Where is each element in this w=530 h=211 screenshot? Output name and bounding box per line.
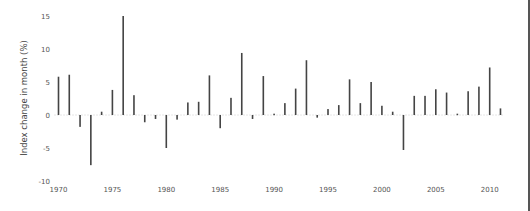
y-axis-ticks: -10-5051015 <box>39 13 50 186</box>
x-tick-label: 2000 <box>373 186 391 194</box>
x-tick-label: 1980 <box>157 186 175 194</box>
x-tick-label: 1990 <box>265 186 283 194</box>
x-tick-label: 2005 <box>427 186 445 194</box>
x-axis-ticks: 197019751980198519901995200020052010 <box>50 186 499 194</box>
bar-1971 <box>68 75 70 115</box>
x-tick-label: 1985 <box>211 186 229 194</box>
y-tick-label: -5 <box>43 145 50 153</box>
chart: Index change in month (%) -10-5051015 19… <box>0 0 530 211</box>
bar-1982 <box>187 102 189 115</box>
bar-1986 <box>230 98 232 115</box>
x-tick-label: 1970 <box>50 186 68 194</box>
bar-2009 <box>478 87 480 115</box>
y-axis-title: Index change in month (%) <box>19 40 29 156</box>
bar-1976 <box>122 16 124 115</box>
bar-1979 <box>155 115 157 119</box>
bar-2006 <box>446 93 448 115</box>
bar-2004 <box>424 96 426 115</box>
bar-2008 <box>467 91 469 115</box>
bar-1992 <box>295 89 297 115</box>
y-tick-label: 15 <box>41 13 50 21</box>
bar-1998 <box>360 103 362 115</box>
bar-1977 <box>133 95 135 115</box>
bar-1970 <box>58 77 60 115</box>
bar-1994 <box>316 115 318 118</box>
bar-1996 <box>338 105 340 115</box>
y-tick-label: 10 <box>41 46 50 54</box>
bar-2003 <box>413 96 415 115</box>
bar-1978 <box>144 115 146 122</box>
x-tick-label: 2010 <box>481 186 499 194</box>
bar-1988 <box>252 115 254 119</box>
x-tick-label: 1975 <box>103 186 121 194</box>
y-tick-label: 5 <box>46 79 50 87</box>
bars <box>58 16 502 165</box>
bar-1985 <box>219 115 221 128</box>
bar-2010 <box>489 67 491 115</box>
x-tick-label: 1995 <box>319 186 337 194</box>
bar-1989 <box>263 76 265 115</box>
y-tick-label: 0 <box>46 112 50 120</box>
bar-1974 <box>101 112 103 115</box>
bar-1980 <box>166 115 168 148</box>
bar-1975 <box>112 90 114 115</box>
bar-2005 <box>435 89 437 115</box>
bar-2011 <box>500 108 502 115</box>
bar-2000 <box>381 106 383 115</box>
bar-2002 <box>403 115 405 150</box>
bar-1984 <box>209 75 211 115</box>
bar-1991 <box>284 103 286 115</box>
bar-2001 <box>392 112 394 115</box>
y-tick-label: -10 <box>39 178 50 186</box>
bar-1990 <box>273 114 275 116</box>
bar-1997 <box>349 79 351 115</box>
bar-1993 <box>306 60 308 115</box>
bar-1981 <box>176 115 178 120</box>
bar-1995 <box>327 109 329 115</box>
bar-1972 <box>79 115 81 127</box>
y-axis-title-group: Index change in month (%) <box>19 40 29 156</box>
bar-1987 <box>241 53 243 115</box>
bar-1983 <box>198 102 200 115</box>
bar-2007 <box>457 114 459 116</box>
bar-1973 <box>90 115 92 165</box>
bar-1999 <box>370 82 372 115</box>
